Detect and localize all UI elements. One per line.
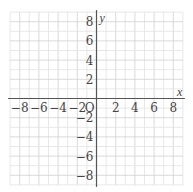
x-tick-label: 2 (112, 101, 120, 115)
y-tick-label: −6 (76, 150, 94, 164)
coordinate-plane: −8−6−4−22468−8−6−4−22468 x y O (0, 0, 193, 192)
x-tick-label: −6 (30, 101, 48, 115)
origin-label: O (85, 101, 95, 115)
x-tick-label: 6 (150, 101, 158, 115)
x-tick-label: −8 (11, 101, 29, 115)
y-tick-label: 4 (86, 54, 94, 68)
y-tick-label: −8 (76, 169, 94, 183)
x-tick-label: 8 (169, 101, 177, 115)
y-axis-label: y (99, 11, 106, 25)
x-axis-label: x (176, 85, 183, 99)
y-tick-label: 6 (86, 34, 94, 48)
axes (8, 10, 185, 187)
y-tick-label: 8 (86, 15, 94, 29)
y-tick-label: −4 (76, 130, 94, 144)
x-tick-label: −4 (49, 101, 67, 115)
y-tick-label: 2 (86, 73, 94, 87)
x-tick-label: 4 (131, 101, 139, 115)
